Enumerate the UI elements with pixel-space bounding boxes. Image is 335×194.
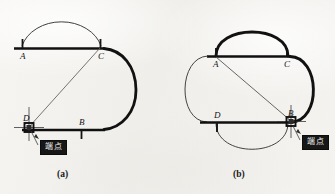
diagram-canvas xyxy=(0,0,335,194)
figure-b-geometry xyxy=(185,32,313,149)
figure-a-rubber-band-line xyxy=(29,48,100,127)
figure-b-diagonal-line xyxy=(216,57,291,121)
figure-b-endpoint-snap-marker-inner xyxy=(289,119,294,124)
figure-a-point-label-c: C xyxy=(98,52,104,61)
figure-a-endpoint-snap-marker-inner xyxy=(27,125,32,130)
figure-b-endpoint-tooltip: 端点 xyxy=(302,135,329,150)
figure-a-point-label-d: D xyxy=(23,114,30,123)
figure-b-point-label-c: C xyxy=(284,60,290,69)
figure-a-point-label-a: A xyxy=(20,52,26,61)
figure-b-thin-bottom-arc xyxy=(216,123,288,149)
figure-a-thick-right-arc xyxy=(104,49,136,130)
figure-a-thin-upper-arc xyxy=(22,22,101,46)
figure-a-endpoint-tooltip: 端点 xyxy=(40,140,67,155)
figure-page: A C B D 端点 (a) A C D B 端点 (b) xyxy=(0,0,335,194)
figure-b-point-label-a: A xyxy=(213,60,219,69)
figure-b-point-label-b: B xyxy=(288,109,294,118)
figure-b-thin-left-arc xyxy=(185,56,208,122)
figure-a-geometry xyxy=(14,22,136,145)
figure-b-caption: (b) xyxy=(233,170,245,180)
figure-a-caption: (a) xyxy=(57,170,68,180)
figure-a-point-label-b: B xyxy=(79,118,85,127)
figure-b-thick-top-arc xyxy=(216,32,288,56)
figure-b-point-label-d: D xyxy=(214,111,221,120)
